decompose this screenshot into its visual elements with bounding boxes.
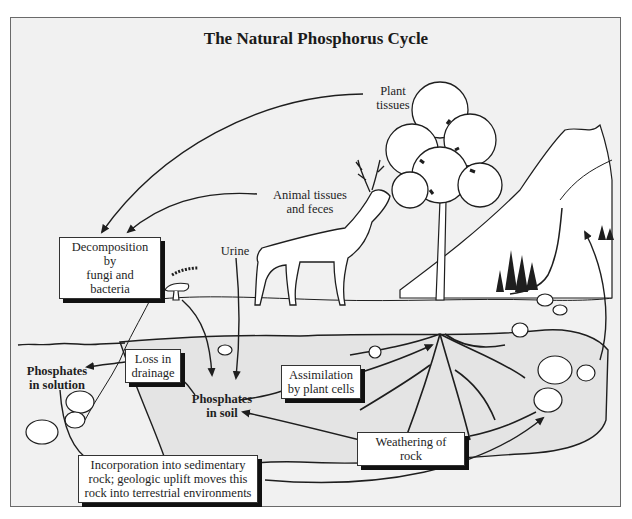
label-plant-tissues: Plant tissues: [368, 84, 418, 112]
box-incorporation: Incorporation into sedimentary rock; geo…: [78, 455, 258, 503]
label-phosphates-in-solution: Phosphates in solution: [22, 364, 92, 392]
water-surface: [18, 343, 125, 345]
deer: [255, 160, 390, 305]
box-loss-in-drainage: Loss in drainage: [125, 349, 181, 383]
arrow-drainage-to-solution: [87, 362, 125, 367]
label-urine: Urine: [215, 244, 255, 258]
label-animal-tissues: Animal tissues and feces: [260, 188, 360, 216]
diagram-title: The Natural Phosphorus Cycle: [0, 29, 632, 49]
box-decomposition: Decomposition by fungi and bacteria: [59, 237, 161, 299]
box-assimilation: Assimilation by plant cells: [281, 365, 361, 399]
label-phosphates-in-soil: Phosphates in soil: [186, 392, 258, 420]
caterpillar: [172, 268, 198, 275]
box-weathering: Weathering of rock: [357, 432, 465, 466]
arrow-animal-to-decomposition: [128, 193, 257, 232]
